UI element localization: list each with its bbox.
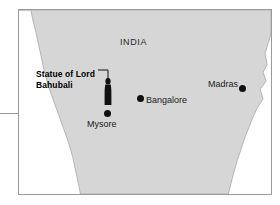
- city-dot-bangalore: [137, 95, 144, 102]
- region-label-india: INDIA: [120, 38, 147, 47]
- map-figure: INDIA Bangalore Madras Mysore Statue of …: [0, 0, 280, 205]
- frame-left-tick: [0, 113, 19, 114]
- callout-line-2: Bahubali: [36, 80, 95, 91]
- statue-figure-icon: [102, 77, 114, 111]
- city-label-madras: Madras: [208, 80, 238, 89]
- city-dot-mysore: [104, 110, 111, 117]
- city-label-mysore: Mysore: [87, 120, 117, 129]
- city-dot-madras: [239, 85, 246, 92]
- callout-line-1: Statue of Lord: [36, 69, 95, 80]
- callout-statue-of-lord-bahubali: Statue of Lord Bahubali: [36, 69, 95, 92]
- callout-leader-line: [98, 67, 112, 81]
- city-label-bangalore: Bangalore: [146, 96, 187, 105]
